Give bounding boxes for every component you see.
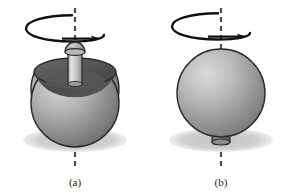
stem-tip-b [212, 139, 230, 145]
stem-a [65, 42, 85, 87]
tippe-top-figure: (a) (b) [0, 0, 297, 195]
panel-label-a: (a) [69, 176, 82, 189]
spin-arrow-a [26, 15, 104, 41]
stem-knob-rim-a [65, 49, 85, 56]
stem-base-a [68, 81, 82, 86]
panel-b: (b) [169, 8, 273, 189]
figure-canvas: (a) (b) [0, 0, 297, 195]
panel-a: (a) [23, 8, 127, 189]
spin-arrow-b [172, 13, 250, 39]
panel-label-b: (b) [215, 176, 228, 189]
sphere-body-b [177, 49, 265, 137]
